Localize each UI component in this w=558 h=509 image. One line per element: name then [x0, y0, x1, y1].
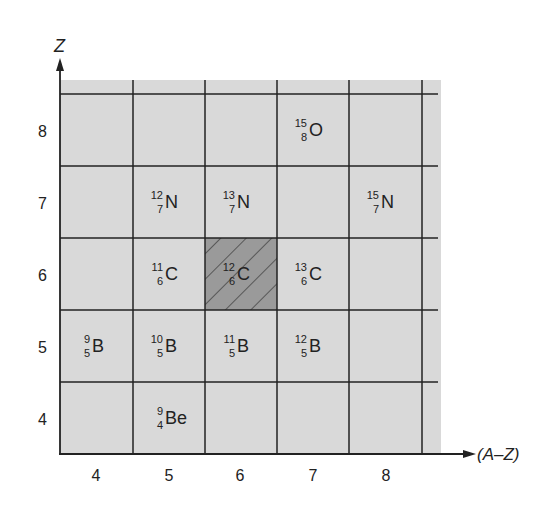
element-symbol: N [381, 192, 394, 212]
element-symbol: Be [165, 408, 187, 428]
atomic-number: 5 [229, 347, 235, 359]
x-tick-labels: 4 5 6 7 8 [92, 467, 391, 484]
x-tick: 6 [236, 467, 245, 484]
mass-number: 12 [223, 261, 235, 273]
mass-number: 11 [224, 333, 235, 345]
y-tick: 5 [38, 339, 47, 356]
mass-number: 15 [295, 117, 307, 129]
x-tick: 7 [309, 467, 318, 484]
atomic-number: 7 [157, 203, 163, 215]
element-symbol: C [165, 264, 178, 284]
element-symbol: B [309, 336, 321, 356]
x-tick: 8 [382, 467, 391, 484]
y-axis-label: Z [53, 36, 66, 56]
mass-number: 12 [151, 189, 163, 201]
x-axis-label: (A–Z) [477, 445, 520, 464]
mass-number: 15 [367, 189, 379, 201]
atomic-number: 7 [229, 203, 235, 215]
element-symbol: B [237, 336, 249, 356]
atomic-number: 5 [84, 347, 90, 359]
y-tick: 6 [38, 267, 47, 284]
x-tick: 5 [165, 467, 174, 484]
atomic-number: 8 [301, 131, 307, 143]
element-symbol: N [165, 192, 178, 212]
atomic-number: 6 [229, 275, 235, 287]
y-tick-labels: 8 7 6 5 4 [38, 123, 47, 428]
element-symbol: C [309, 264, 322, 284]
atomic-number: 7 [373, 203, 379, 215]
mass-number: 10 [151, 333, 163, 345]
atomic-number: 6 [157, 275, 163, 287]
y-tick: 7 [38, 195, 47, 212]
element-symbol: B [165, 336, 177, 356]
y-tick: 8 [38, 123, 47, 140]
element-symbol: C [237, 264, 250, 284]
atomic-number: 5 [301, 347, 307, 359]
nuclide-chart: Z (A–Z) 8 7 6 5 4 4 5 6 7 8 158O127N137N… [0, 0, 558, 509]
mass-number: 11 [152, 261, 163, 273]
atomic-number: 6 [301, 275, 307, 287]
element-symbol: B [92, 336, 104, 356]
element-symbol: O [309, 120, 323, 140]
atomic-number: 5 [157, 347, 163, 359]
mass-number: 13 [295, 261, 307, 273]
element-symbol: N [237, 192, 250, 212]
atomic-number: 4 [157, 419, 163, 431]
mass-number: 9 [84, 333, 90, 345]
x-tick: 4 [92, 467, 101, 484]
mass-number: 13 [223, 189, 235, 201]
mass-number: 9 [157, 405, 163, 417]
y-tick: 4 [38, 411, 47, 428]
mass-number: 12 [295, 333, 307, 345]
